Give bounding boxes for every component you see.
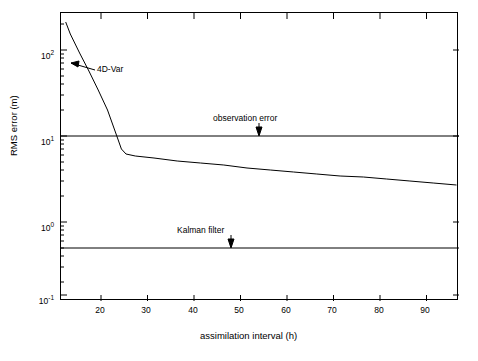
- xtick-label-70: 70: [322, 305, 342, 315]
- annotation-observation-error: observation error: [213, 113, 277, 123]
- series-line-4dvar: [66, 22, 457, 185]
- ytick-label-100: 102: [22, 49, 54, 61]
- xtick-label-90: 90: [415, 305, 435, 315]
- xtick-label-60: 60: [276, 305, 296, 315]
- y-axis-ticks-right: [453, 50, 459, 295]
- y-axis-title: RMS error (m): [8, 95, 19, 156]
- xtick-label-40: 40: [183, 305, 203, 315]
- ytick-exponent: 0: [50, 221, 54, 228]
- x-axis-title: assimilation interval (h): [200, 330, 297, 341]
- ytick-mantissa: 10: [41, 51, 50, 61]
- ytick-label-1: 100: [22, 221, 54, 233]
- xtick-label-20: 20: [90, 305, 110, 315]
- plot-svg: [61, 13, 459, 301]
- ytick-exponent: -1: [48, 294, 54, 301]
- y-axis-ticks: [61, 24, 67, 295]
- x-axis-ticks-top: [101, 13, 427, 19]
- ytick-exponent: 1: [50, 135, 54, 142]
- chart-figure: 102 101 100 10-1 20 30 40 50 60 70 80 90…: [0, 0, 478, 361]
- ytick-mantissa: 10: [41, 223, 50, 233]
- ytick-exponent: 2: [50, 49, 54, 56]
- plot-area: 4D-Var observation error Kalman filter: [60, 12, 458, 300]
- xtick-label-80: 80: [369, 305, 389, 315]
- x-axis-ticks: [101, 295, 427, 301]
- xtick-label-50: 50: [229, 305, 249, 315]
- ytick-mantissa: 10: [41, 137, 50, 147]
- annotation-4dvar: 4D-Var: [97, 64, 123, 74]
- xtick-label-30: 30: [136, 305, 156, 315]
- ytick-label-10: 101: [22, 135, 54, 147]
- ytick-mantissa: 10: [39, 296, 48, 306]
- annotation-kalman-filter: Kalman filter: [177, 225, 224, 235]
- ytick-label-0.1: 10-1: [22, 294, 54, 306]
- annotation-arrows: [71, 61, 262, 248]
